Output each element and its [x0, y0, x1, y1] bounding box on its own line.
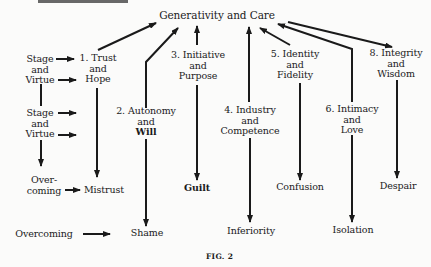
stage-2-virtue: Will: [116, 127, 176, 138]
stage-8-negative: Despair: [380, 181, 417, 192]
legend-overcoming-long: Overcoming: [15, 229, 73, 240]
figure-caption: FIG. 2: [206, 252, 233, 261]
stage-4-node: 4. Industry and Competence: [220, 105, 279, 137]
stage-5-virtue: Fidelity: [271, 70, 320, 81]
legend-overcoming-short: Over- coming: [27, 175, 62, 196]
stage-6-negative: Isolation: [333, 225, 374, 236]
stage-4-virtue: Competence: [220, 126, 279, 137]
stage-6-title: 6. Intimacy: [325, 104, 378, 115]
stage-6-virtue: Love: [325, 125, 378, 136]
stage-5-title: 5. Identity: [271, 49, 320, 60]
stage-4-title: 4. Industry: [220, 105, 279, 116]
stage-2-negative: Shame: [131, 228, 163, 239]
stage-1-title: 1. Trust: [80, 53, 117, 64]
stage-1-negative: Mistrust: [84, 185, 124, 196]
stage-3-title: 3. Initiative: [171, 50, 225, 61]
stage-3-virtue: Purpose: [171, 71, 225, 82]
stage-6-node: 6. Intimacy and Love: [325, 104, 378, 136]
legend-stage-virtue-1: Stage and Virtue: [25, 54, 54, 86]
stage-1-virtue: Hope: [80, 74, 117, 85]
stage-2-title: 2. Autonomy: [116, 106, 176, 117]
stage-3-negative: Guilt: [184, 183, 210, 194]
stage-5-negative: Confusion: [276, 182, 324, 193]
stage-8-node: 8. Integrity and Wisdom: [369, 48, 422, 80]
stage-2-node: 2. Autonomy and Will: [116, 106, 176, 138]
center-label: Generativity and Care: [159, 10, 275, 21]
stage-8-title: 8. Integrity: [369, 48, 422, 59]
stage-4-negative: Inferiority: [227, 226, 275, 237]
stage-3-node: 3. Initiative and Purpose: [171, 50, 225, 82]
stage-8-virtue: Wisdom: [369, 69, 422, 80]
center-node-generativity: Generativity and Care: [159, 10, 275, 21]
stage-1-node: 1. Trust and Hope: [80, 53, 117, 85]
stage-5-node: 5. Identity and Fidelity: [271, 49, 320, 81]
legend-stage-virtue-2: Stage and Virtue: [25, 108, 54, 140]
